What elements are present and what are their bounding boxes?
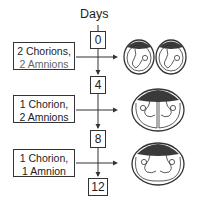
sac-right <box>156 40 186 74</box>
arrow-head <box>96 70 101 75</box>
stage-box-monochorionic-diamniotic: 1 Chorion, 2 Amnions <box>13 95 75 123</box>
stage-box-dichorionic: 2 Chorions, 2 Amnions <box>13 42 75 70</box>
stage-box-monochorionic-monoamniotic: 1 Chorion, 1 Amnion <box>13 149 75 177</box>
placenta <box>137 144 179 156</box>
stage-label-line2: 2 Amnions <box>14 111 74 124</box>
placenta <box>137 90 179 102</box>
stage-label-line2: 1 Amnion <box>14 165 74 178</box>
day-box-4: 4 <box>90 76 106 94</box>
day-box-0: 0 <box>90 31 106 49</box>
stage-label-line1: 2 Chorions, <box>14 45 74 58</box>
day-box-12: 12 <box>88 178 108 196</box>
stage-label-line2: 2 Amnions <box>14 58 74 71</box>
arrow-head <box>96 172 101 177</box>
shared-chorion-divided-amnion-icon <box>132 89 184 131</box>
shared-chorion-shared-amnion-icon <box>132 143 184 185</box>
stage-label-line1: 1 Chorion, <box>14 98 74 111</box>
day-box-8: 8 <box>90 130 106 148</box>
days-title: Days <box>80 7 108 21</box>
two-separate-sacs-icon <box>124 40 186 74</box>
arrow-head <box>113 161 118 166</box>
sac-left <box>124 40 154 74</box>
stage-label-line1: 1 Chorion, <box>14 152 74 165</box>
arrow-head <box>113 55 118 60</box>
arrow-head <box>96 124 101 129</box>
arrow-head <box>113 108 118 113</box>
